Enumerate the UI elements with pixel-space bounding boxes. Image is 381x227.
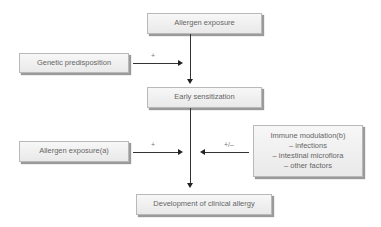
node-genetic-predisposition: Genetic predisposition (19, 53, 129, 73)
node-allergen-exposure: Allergen exposure (147, 13, 262, 34)
node-title: Immune modulation(b) (270, 131, 345, 141)
node-label: Early sensitization (174, 92, 234, 102)
node-item: – other factors (284, 161, 332, 171)
edge-allergen-a-line (133, 152, 180, 153)
arrow-right-icon (178, 149, 183, 155)
main-flow-line-2 (190, 108, 191, 184)
edge-genetic-sign: + (151, 52, 155, 59)
node-label: Allergen exposure(a) (39, 146, 109, 156)
node-label: Genetic predisposition (37, 58, 111, 68)
node-early-sensitization: Early sensitization (147, 87, 262, 108)
node-clinical-allergy: Development of clinical allergy (136, 194, 272, 215)
node-item: – infections (289, 141, 327, 151)
edge-genetic-line (133, 63, 180, 64)
arrow-down-icon (187, 79, 193, 84)
node-item: – intestinal microflora (273, 151, 344, 161)
arrow-right-icon (178, 60, 183, 66)
edge-immune-line (205, 152, 249, 153)
edge-allergen-a-sign: + (151, 141, 155, 148)
node-allergen-exposure-a: Allergen exposure(a) (19, 141, 129, 162)
node-immune-modulation: Immune modulation(b) – infections – inte… (253, 125, 363, 177)
edge-immune-sign: +/– (224, 141, 234, 148)
main-flow-line-1 (190, 34, 191, 81)
arrow-left-icon (200, 149, 205, 155)
node-label: Development of clinical allergy (153, 199, 254, 209)
node-label: Allergen exposure (174, 18, 234, 28)
arrow-down-icon (187, 183, 193, 188)
